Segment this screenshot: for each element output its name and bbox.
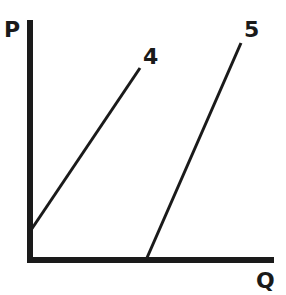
x-axis-label: Q <box>256 268 275 293</box>
curve-5-label: 5 <box>244 17 259 42</box>
supply-diagram: P 4 5 Q <box>0 0 286 295</box>
curve-5 <box>146 43 241 260</box>
y-axis-label: P <box>4 17 20 42</box>
curve-4 <box>31 68 140 230</box>
curve-4-label: 4 <box>143 44 158 69</box>
